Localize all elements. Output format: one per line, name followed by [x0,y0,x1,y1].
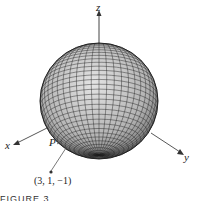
point-p-label: P [49,137,56,148]
figure-caption: FIGURE 3 [0,195,50,201]
point-marker [49,170,52,173]
p-connector [51,148,66,171]
y-axis [151,133,180,152]
x-axis [17,128,47,143]
sphere-diagram [0,0,197,201]
sphere [40,43,158,159]
y-axis-label: y [184,152,189,163]
point-coordinates: (3, 1, −1) [34,176,71,186]
z-axis-label: z [96,2,100,13]
x-axis-label: x [5,140,10,151]
